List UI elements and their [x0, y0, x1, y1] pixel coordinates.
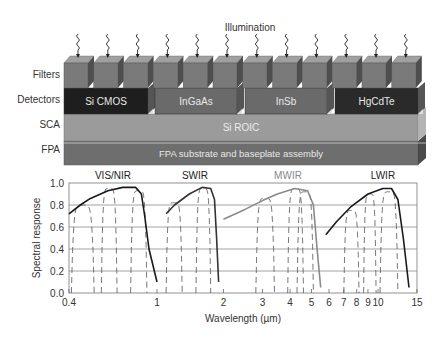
y-tick-label: 1.0 — [50, 178, 64, 189]
detector-label: HgCdTe — [358, 96, 395, 107]
x-tick-label: 9 — [365, 297, 371, 308]
filter-cube — [392, 56, 422, 88]
illumination-wave-icon — [136, 34, 140, 58]
x-tick-label: 4 — [287, 297, 293, 308]
filter-cube — [153, 56, 183, 88]
ir-fpa-diagram: Illumination Filters Detectors SCA FPA F… — [0, 0, 445, 342]
filter-cube — [183, 56, 213, 88]
illumination-wave-icon — [374, 34, 378, 58]
row-label-fpa: FPA — [41, 144, 60, 155]
band-label: LWIR — [371, 170, 395, 181]
filter-cube — [124, 56, 154, 88]
row-label-detectors: Detectors — [17, 94, 60, 105]
x-tick-label: 2 — [221, 297, 227, 308]
y-tick-label: 0.8 — [50, 200, 64, 211]
x-tick-label: 6 — [326, 297, 332, 308]
x-axis-label: Wavelength (µm) — [205, 313, 281, 324]
illumination-wave-icon — [404, 34, 408, 58]
illumination-wave-icon — [165, 34, 169, 58]
illumination-wave-icon — [344, 34, 348, 58]
illumination-wave-icon — [195, 34, 199, 58]
band-label: SWIR — [182, 170, 208, 181]
illumination-wave-icon — [255, 34, 259, 58]
illumination-wave-icon — [285, 34, 289, 58]
filter-cube — [362, 56, 392, 88]
x-tick-label: 0.4 — [62, 297, 76, 308]
filter-cube — [273, 56, 303, 88]
illumination-wave-icon — [225, 34, 229, 58]
row-label-sca: SCA — [39, 119, 60, 130]
illumination-wave-icon — [314, 34, 318, 58]
y-tick-label: 0.4 — [50, 244, 64, 255]
band-label: VIS/NIR — [95, 170, 131, 181]
x-tick-label: 8 — [354, 297, 360, 308]
sca-label: Si ROIC — [223, 122, 260, 133]
y-tick-label: 0.6 — [50, 222, 64, 233]
y-tick-label: 0.2 — [50, 266, 64, 277]
y-axis-label: Spectral response — [31, 197, 42, 278]
detector-label: Si CMOS — [85, 96, 127, 107]
x-tick-label: 3 — [260, 297, 266, 308]
spectral-response-chart: 0.00.20.40.60.81.0 0.41234567891015 VIS/… — [31, 170, 423, 324]
filter-cube — [213, 56, 243, 88]
filter-cube — [94, 56, 124, 88]
detector-label: InGaAs — [179, 96, 212, 107]
row-label-filters: Filters — [33, 69, 60, 80]
illumination-wave-icon — [106, 34, 110, 58]
x-tick-label: 1 — [154, 297, 160, 308]
detector-label: InSb — [276, 96, 297, 107]
x-tick-label: 10 — [373, 297, 385, 308]
x-tick-label: 7 — [341, 297, 347, 308]
band-label: MWIR — [274, 170, 302, 181]
illumination-wave-icon — [76, 34, 80, 58]
illumination-label: Illumination — [225, 22, 276, 33]
filter-cube — [332, 56, 362, 88]
illumination-arrows — [76, 34, 408, 58]
x-tick-label: 5 — [309, 297, 315, 308]
x-tick-label: 15 — [411, 297, 423, 308]
filter-cube — [64, 56, 94, 88]
fpa-label: FPA substrate and baseplate assembly — [159, 148, 323, 159]
filters-row — [64, 56, 422, 88]
filter-cube — [302, 56, 332, 88]
filter-cube — [243, 56, 273, 88]
